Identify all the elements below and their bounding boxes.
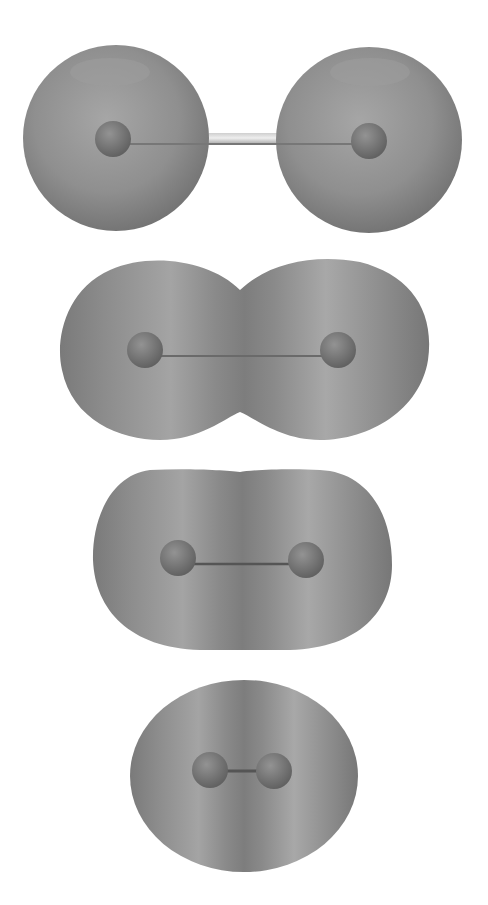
panel-separated xyxy=(23,45,462,233)
bond-rod xyxy=(200,133,280,143)
panel-touching xyxy=(60,259,429,440)
figure xyxy=(0,0,488,905)
orbital-diagram xyxy=(0,0,488,905)
nucleus-left xyxy=(127,332,163,368)
nucleus-right xyxy=(351,123,387,159)
nucleus-right xyxy=(256,753,292,789)
panel-merged xyxy=(93,469,392,650)
nucleus-left xyxy=(160,540,196,576)
density-peanut xyxy=(60,259,429,440)
density-oblong xyxy=(93,469,392,650)
panel-compact xyxy=(130,680,358,872)
nucleus-right xyxy=(320,332,356,368)
nucleus-left xyxy=(95,121,131,157)
nucleus-left xyxy=(192,752,228,788)
nucleus-right xyxy=(288,542,324,578)
density-ovoid xyxy=(130,680,358,872)
